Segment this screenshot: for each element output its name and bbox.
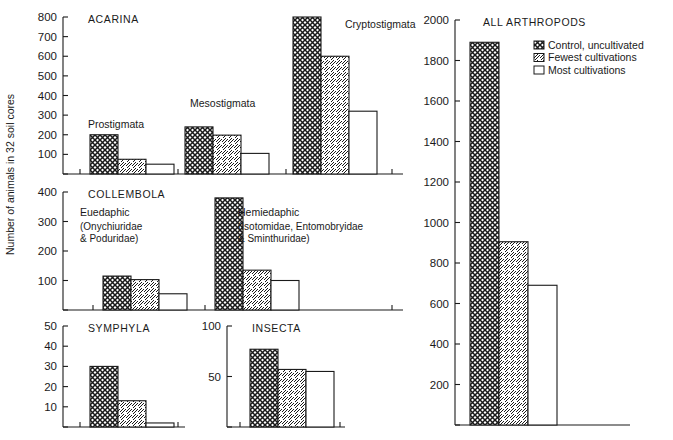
y-tick-label: 300 [38, 216, 57, 228]
bar [131, 280, 159, 310]
y-tick-label: 800 [430, 257, 449, 269]
y-tick-label: 1400 [423, 136, 449, 148]
y-tick-label: 100 [38, 275, 57, 287]
y-tick-label: 50 [208, 371, 221, 383]
group-label-sub: (Isotomidae, Entomobryidae [238, 221, 364, 232]
legend-item-label: Most cultivations [548, 64, 626, 76]
legend-swatch [534, 54, 544, 62]
y-tick-label: 400 [430, 338, 449, 350]
y-tick-label: 1600 [423, 95, 449, 107]
y-tick-label: 700 [38, 31, 57, 43]
panel-title: SYMPHYLA [88, 322, 150, 334]
bar [250, 349, 278, 427]
bar [146, 423, 174, 427]
bar [118, 401, 146, 427]
bar [241, 153, 269, 174]
bar [103, 276, 131, 310]
panel-title: ALL ARTHROPODS [483, 16, 586, 28]
y-tick-label: 200 [430, 379, 449, 391]
bar [118, 159, 146, 174]
y-tick-label: 600 [38, 50, 57, 62]
y-tick-label: 10 [44, 401, 57, 413]
y-tick-label: 50 [44, 320, 57, 332]
panel-title: ACARINA [88, 13, 139, 25]
group-label-sub: (Onychiuridae [80, 221, 143, 232]
y-tick-label: 1800 [423, 55, 449, 67]
bar [293, 17, 321, 174]
y-tick-label: 1000 [423, 217, 449, 229]
bar [90, 135, 118, 174]
y-tick-label: 40 [44, 340, 57, 352]
legend-item: Most cultivations [534, 64, 626, 76]
y-tick-label: 1200 [423, 176, 449, 188]
group-label: Cryptostigmata [345, 18, 416, 30]
bar [306, 371, 334, 427]
y-tick-label: 100 [38, 148, 57, 160]
y-tick-label: 600 [430, 298, 449, 310]
y-tick-label: 400 [38, 186, 57, 198]
bar [185, 127, 213, 174]
legend-swatch [534, 41, 544, 49]
bar [271, 281, 299, 311]
bar [499, 242, 528, 425]
bar [243, 270, 271, 310]
legend-item: Control, uncultivated [534, 39, 644, 51]
group-label: Mesostigmata [190, 97, 256, 109]
group-label-sub: & Sminthuridae) [238, 233, 310, 244]
group-label: Euedaphic [80, 206, 130, 218]
bar [470, 42, 499, 425]
group-label-sub: & Poduridae) [80, 233, 138, 244]
bar [90, 366, 118, 427]
y-tick-label: 100 [202, 320, 221, 332]
y-axis-title: Number of animals in 32 soil cores [4, 94, 16, 255]
legend-item-label: Control, uncultivated [548, 39, 644, 51]
bar [349, 111, 377, 174]
y-tick-label: 300 [38, 109, 57, 121]
group-label: Prostigmata [88, 118, 144, 130]
figure-root: 100200300400500600700800ACARINA100200300… [0, 0, 673, 440]
y-tick-label: 30 [44, 360, 57, 372]
y-tick-label: 200 [38, 245, 57, 257]
legend-swatch [534, 66, 544, 74]
y-tick-label: 2000 [423, 14, 449, 26]
legend-item-label: Fewest cultivations [548, 51, 637, 63]
legend-item: Fewest cultivations [534, 51, 637, 63]
bar [278, 369, 306, 427]
y-tick-label: 500 [38, 70, 57, 82]
panel-title: COLLEMBOLA [88, 188, 165, 200]
y-tick-label: 200 [38, 129, 57, 141]
bar [321, 56, 349, 174]
bar [159, 294, 187, 310]
group-label: Hemiedaphic [238, 206, 299, 218]
bar [528, 285, 557, 425]
chart-canvas: 100200300400500600700800ACARINA100200300… [0, 0, 673, 440]
y-tick-label: 400 [38, 90, 57, 102]
bar [146, 164, 174, 174]
y-tick-label: 800 [38, 11, 57, 23]
legend-layer: Control, uncultivatedFewest cultivations… [534, 39, 644, 76]
panel-title: INSECTA [252, 322, 301, 334]
bar [213, 135, 241, 174]
y-tick-label: 20 [44, 381, 57, 393]
